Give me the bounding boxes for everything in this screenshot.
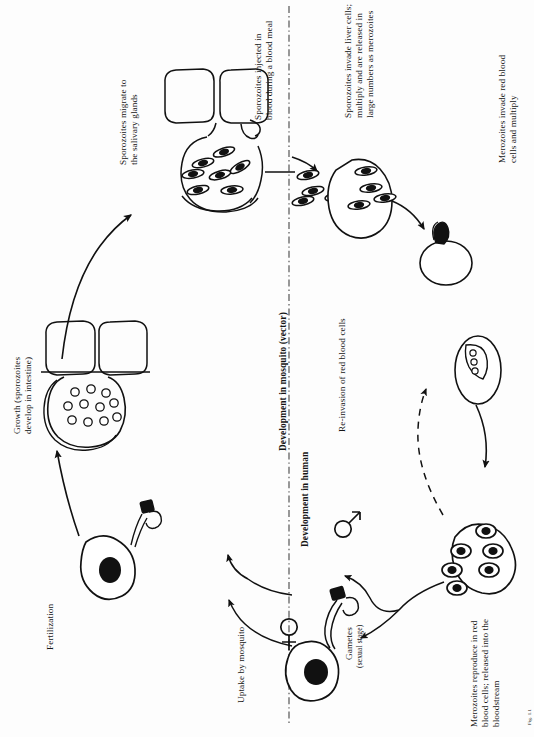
label-gametes: Gametes — [344, 627, 355, 660]
label-gametes-sublabel: (sexual stage) — [355, 625, 364, 668]
arrow-zygote-to-oocyst — [57, 451, 79, 536]
zygote-flagellum — [131, 500, 161, 547]
label-reinvasion: Re-invasion of red blood cells — [337, 318, 348, 432]
label-fertilization: Fertilization — [45, 604, 56, 650]
arrow-injected-into-blood — [292, 157, 317, 171]
oocyst-sporozoites — [64, 385, 121, 426]
arrow-schizont-to-merozoites — [476, 405, 486, 467]
female-symbol-icon — [281, 619, 297, 650]
oocyst-drawing — [41, 321, 150, 450]
figure-canvas: Sporozoites migrate to the salivary glan… — [0, 0, 534, 737]
label-liver-invasion: Sporozoites invade liver cells; multiply… — [343, 4, 377, 118]
liver-cell-drawing — [328, 159, 397, 238]
arrow-to-red-blood-cell — [392, 201, 424, 229]
schizont-drawing — [455, 336, 501, 404]
arrow-to-salivary-glands — [62, 215, 131, 359]
label-salivary-migration: Sporozoites migrate to the salivary glan… — [118, 80, 140, 165]
figure-caption: Fig. 1.1 — [527, 709, 533, 725]
section-label-human: Development in human — [300, 452, 311, 547]
sporozoites-in-gland — [181, 145, 251, 196]
female-gamete-drawing — [286, 641, 339, 701]
red-blood-cell-drawing — [420, 222, 472, 285]
label-merozoites-invade-rbc: Merozoites invade red blood cells and mu… — [497, 55, 519, 163]
label-uptake-by-mosquito: Uptake by mosquito — [236, 627, 247, 703]
zygote-drawing — [81, 536, 135, 599]
label-merozoites-reproduce: Merozoites reproduce in red blood cells;… — [469, 619, 503, 727]
arrow-reinvasion-dashed — [418, 389, 443, 515]
section-label-mosquito: Development in mosquito (vector) — [278, 312, 289, 451]
male-symbol-icon — [335, 512, 360, 537]
label-sporozoites-injected: Sporozoites injected in blood during a b… — [253, 21, 275, 120]
merozoite-cluster-drawing — [442, 524, 516, 595]
label-growth-in-intestine: Growth (sporozoites develop in intestine… — [12, 357, 34, 434]
